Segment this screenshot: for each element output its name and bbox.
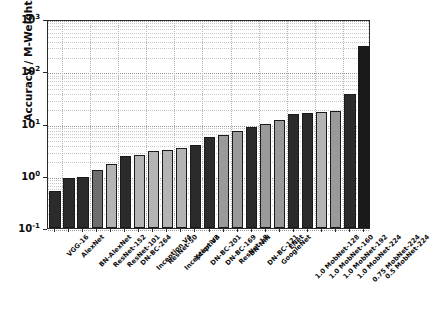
x-tick-mark — [96, 229, 97, 232]
bar — [232, 131, 243, 228]
bar — [358, 46, 369, 228]
x-tick-mark — [82, 229, 83, 232]
x-tick-mark — [152, 229, 153, 232]
bar — [49, 191, 60, 228]
x-tick-mark — [194, 229, 195, 232]
y-tick-mark — [43, 229, 47, 230]
x-tick-mark — [251, 229, 252, 232]
x-tick-mark — [321, 229, 322, 232]
x-tick-mark — [363, 229, 364, 232]
x-tick-mark — [293, 229, 294, 232]
x-tick-mark — [54, 229, 55, 232]
y-tick-label: 103 — [0, 13, 40, 25]
y-tick-label: 10-1 — [0, 222, 40, 234]
y-tick-label: 101 — [0, 118, 40, 130]
x-tick-mark — [237, 229, 238, 232]
y-tick-label: 100 — [0, 170, 40, 182]
bar — [77, 177, 88, 228]
x-tick-mark — [110, 229, 111, 232]
bar — [330, 111, 341, 228]
bars-group — [48, 21, 369, 228]
x-tick-mark — [166, 229, 167, 232]
x-tick-mark — [68, 229, 69, 232]
bar — [106, 164, 117, 228]
y-tick-label: 102 — [0, 65, 40, 77]
bar — [134, 155, 145, 228]
bar — [176, 148, 187, 228]
x-tick-mark — [223, 229, 224, 232]
bar — [288, 114, 299, 228]
bar — [148, 151, 159, 228]
bar — [204, 137, 215, 228]
bar — [302, 113, 313, 228]
bar — [190, 145, 201, 228]
x-tick-mark — [307, 229, 308, 232]
bar — [274, 120, 285, 228]
plot-area — [47, 20, 370, 229]
bar — [162, 150, 173, 228]
bar — [316, 112, 327, 228]
bar — [218, 135, 229, 228]
x-tick-mark — [180, 229, 181, 232]
bar — [246, 127, 257, 228]
bar — [344, 94, 355, 228]
bar — [120, 156, 131, 228]
x-tick-mark — [265, 229, 266, 232]
x-tick-mark — [279, 229, 280, 232]
x-tick-mark — [335, 229, 336, 232]
bar — [63, 178, 74, 228]
bar — [92, 170, 103, 228]
x-tick-mark — [349, 229, 350, 232]
x-tick-mark — [209, 229, 210, 232]
bar — [260, 124, 271, 229]
x-tick-mark — [138, 229, 139, 232]
x-tick-mark — [124, 229, 125, 232]
